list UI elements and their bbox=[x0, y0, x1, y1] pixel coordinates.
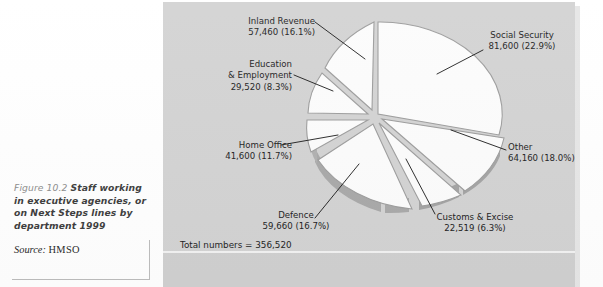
pie-label-social-security-value: 81,600 (22.9%) bbox=[470, 41, 574, 52]
pie-label-other-name: Other bbox=[508, 142, 600, 153]
total-numbers-text: Total numbers = 356,520 bbox=[180, 240, 292, 250]
caption-block: Figure 10.2 Staff working in executive a… bbox=[14, 182, 154, 255]
source-label: Source: bbox=[14, 244, 46, 255]
figure-screenshot: Inland Revenue 57,460 (16.1%) Education … bbox=[0, 0, 603, 287]
pie-label-social-security-name: Social Security bbox=[470, 30, 574, 41]
pie-label-inland-revenue-name: Inland Revenue bbox=[203, 16, 315, 27]
pie-label-customs-value: 22,519 (6.3%) bbox=[420, 223, 530, 234]
pie-label-customs: Customs & Excise 22,519 (6.3%) bbox=[420, 212, 530, 235]
pie-label-education-name-line1: Education bbox=[180, 59, 292, 70]
pie-label-education: Education & Employment 29,520 (8.3%) bbox=[180, 59, 292, 93]
pie-label-home-office: Home Office 41,600 (11.7%) bbox=[168, 140, 292, 163]
pie-label-defence-name: Defence bbox=[248, 210, 344, 221]
pie-label-home-office-value: 41,600 (11.7%) bbox=[168, 151, 292, 162]
caption-rule-horizontal bbox=[12, 279, 150, 280]
source-value: HMSO bbox=[49, 244, 80, 255]
figure-number: Figure 10.2 bbox=[14, 182, 67, 193]
pie-label-defence-value: 59,660 (16.7%) bbox=[248, 221, 344, 232]
caption-rule-vertical bbox=[149, 240, 150, 280]
pie-label-customs-name: Customs & Excise bbox=[420, 212, 530, 223]
pie-label-inland-revenue-value: 57,460 (16.1%) bbox=[203, 27, 315, 38]
pie-label-education-value: 29,520 (8.3%) bbox=[180, 82, 292, 93]
pie-label-home-office-name: Home Office bbox=[168, 140, 292, 151]
pie-label-other: Other 64,160 (18.0%) bbox=[508, 142, 600, 165]
pie-label-defence: Defence 59,660 (16.7%) bbox=[248, 210, 344, 233]
pie-label-other-value: 64,160 (18.0%) bbox=[508, 153, 600, 164]
source-line: Source: HMSO bbox=[14, 244, 154, 255]
panel-bottom-band bbox=[163, 253, 575, 287]
figure-caption: Figure 10.2 Staff working in executive a… bbox=[14, 182, 154, 232]
pie-label-inland-revenue: Inland Revenue 57,460 (16.1%) bbox=[203, 16, 315, 39]
pie-label-social-security: Social Security 81,600 (22.9%) bbox=[470, 30, 574, 53]
pie-label-education-name-line2: & Employment bbox=[180, 70, 292, 81]
